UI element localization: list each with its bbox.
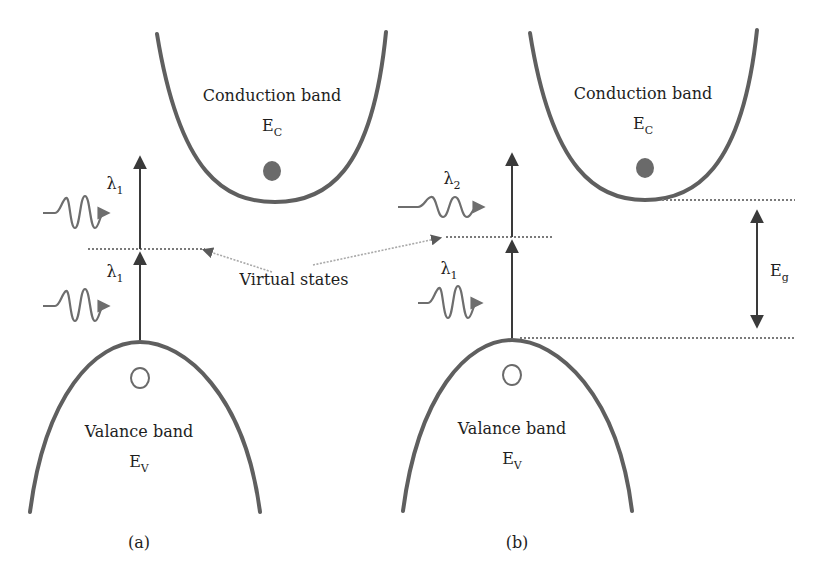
caption-text: (b) bbox=[506, 533, 529, 552]
conduction-band-label-a: Conduction band bbox=[203, 88, 342, 104]
energy-symbol: E bbox=[633, 114, 645, 133]
energy-subscript: C bbox=[645, 124, 653, 137]
caption-text: (a) bbox=[128, 533, 150, 552]
energy-subscript: V bbox=[514, 459, 522, 472]
energy-symbol: E bbox=[262, 116, 274, 135]
valence-energy-label-a: EV bbox=[129, 454, 149, 470]
valence-band-label-a: Valance band bbox=[85, 424, 193, 440]
wavelength-symbol: λ bbox=[106, 262, 116, 281]
valence-band-label-b: Valance band bbox=[458, 421, 566, 437]
conduction-band-title: Conduction band bbox=[203, 86, 342, 105]
wavelength-symbol: λ bbox=[440, 259, 450, 278]
caption-b: (b) bbox=[506, 535, 529, 551]
hole-icon bbox=[503, 365, 521, 385]
conduction-band-label-b: Conduction band bbox=[574, 86, 713, 102]
photon-wave-upper-a bbox=[43, 196, 108, 228]
pointer-to-virtual-state-a bbox=[204, 250, 272, 272]
photon-label-lower-b: λ1 bbox=[440, 261, 457, 277]
valence-band-title: Valance band bbox=[458, 419, 566, 438]
wavelength-subscript: 1 bbox=[117, 184, 124, 197]
energy-symbol: E bbox=[502, 449, 514, 468]
energy-subscript: V bbox=[141, 462, 149, 475]
energy-symbol: E bbox=[129, 452, 141, 471]
valence-band-title: Valance band bbox=[85, 422, 193, 441]
bandgap-label: Eg bbox=[770, 263, 789, 279]
pointer-to-virtual-state-b bbox=[313, 238, 440, 265]
caption-a: (a) bbox=[128, 535, 150, 551]
conduction-energy-label-b: EC bbox=[633, 116, 653, 132]
virtual-states-text: Virtual states bbox=[240, 270, 349, 289]
wavelength-subscript: 1 bbox=[117, 272, 124, 285]
photon-wave-lower-b bbox=[418, 286, 481, 318]
virtual-states-pointers bbox=[204, 238, 440, 272]
photon-label-lower-a: λ1 bbox=[106, 264, 123, 280]
electron-icon bbox=[636, 158, 654, 178]
photon-wave-lower-a bbox=[43, 289, 108, 321]
conduction-band-title: Conduction band bbox=[574, 84, 713, 103]
two-photon-absorption-diagram: Conduction band EC λ1 λ1 Virtual states … bbox=[0, 0, 819, 586]
bandgap-subscript: g bbox=[782, 271, 789, 284]
energy-subscript: C bbox=[274, 126, 282, 139]
conduction-energy-label-a: EC bbox=[262, 118, 282, 134]
virtual-states-label: Virtual states bbox=[240, 272, 349, 288]
bandgap-symbol: E bbox=[770, 261, 782, 280]
wavelength-subscript: 2 bbox=[454, 179, 461, 192]
photon-label-upper-a: λ1 bbox=[106, 176, 123, 192]
photon-wave-upper-b bbox=[398, 197, 483, 217]
wavelength-subscript: 1 bbox=[451, 269, 458, 282]
hole-icon bbox=[131, 368, 149, 388]
electron-icon bbox=[263, 161, 281, 181]
photon-label-upper-b: λ2 bbox=[443, 171, 460, 187]
wavelength-symbol: λ bbox=[106, 174, 116, 193]
wavelength-symbol: λ bbox=[443, 169, 453, 188]
valence-energy-label-b: EV bbox=[502, 451, 522, 467]
